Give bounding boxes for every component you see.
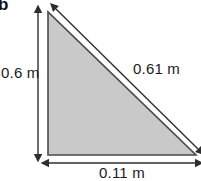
figure-part-label: b: [0, 0, 8, 13]
right-triangle-shape: [48, 12, 196, 155]
triangle-diagram-svg: [0, 0, 201, 181]
base-dimension-label: 0.11 m: [99, 165, 145, 180]
geometry-figure: b 0.6 m 0.61 m 0.11 m: [0, 0, 201, 181]
hypotenuse-dimension-label: 0.61 m: [133, 61, 180, 76]
height-dimension-label: 0.6 m: [1, 65, 40, 80]
